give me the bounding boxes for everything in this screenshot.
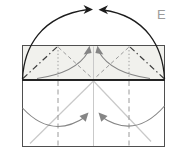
step-label: E	[157, 7, 166, 22]
origami-diagram-svg	[0, 0, 178, 157]
origami-step-diagram: E	[0, 0, 178, 157]
black-arrowhead-right	[99, 5, 109, 14]
